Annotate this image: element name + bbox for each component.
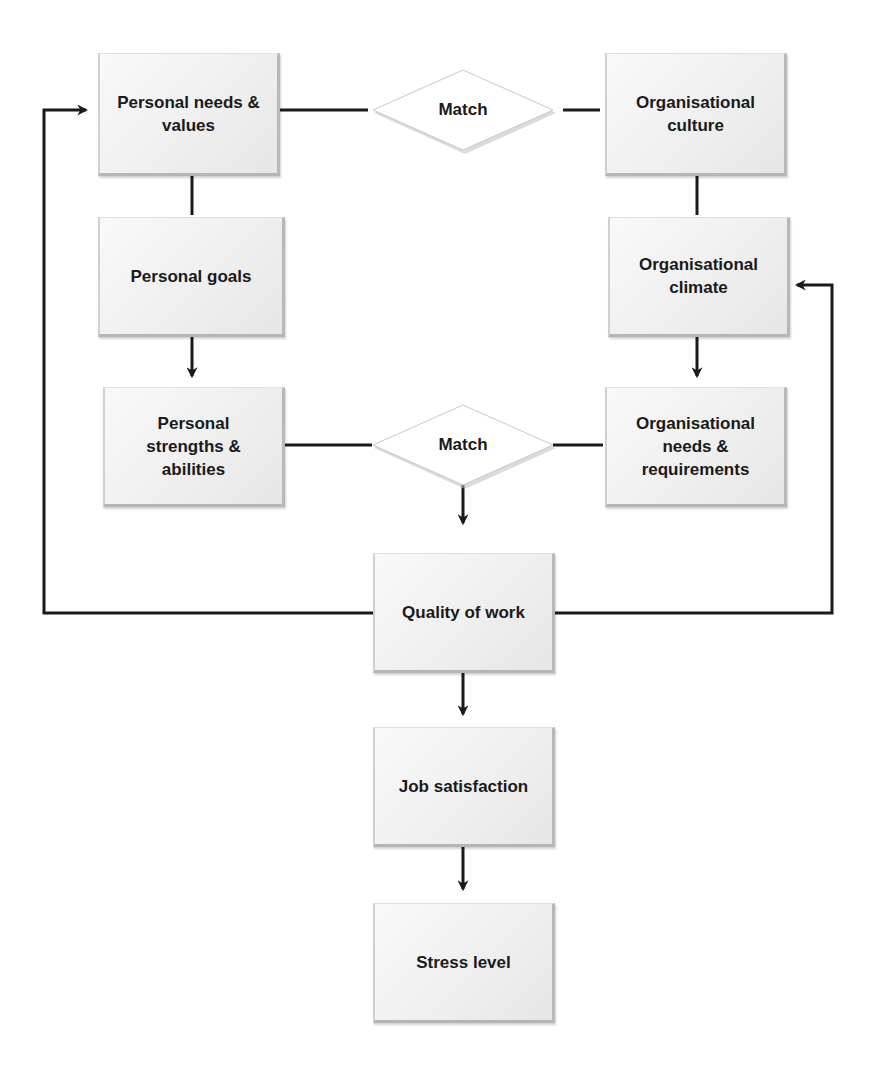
arrow-feedback-to-personal-needs: [44, 110, 373, 613]
match-top-label: Match: [373, 90, 553, 130]
node-personal-strengths-abilities: Personal strengths & abilities: [103, 387, 285, 507]
node-label: Organisational climate: [624, 253, 774, 299]
node-label: Personal needs & values: [114, 91, 264, 137]
node-label: Quality of work: [402, 601, 525, 624]
node-job-satisfaction: Job satisfaction: [373, 727, 555, 847]
match-bottom-label: Match: [373, 425, 553, 465]
node-organisational-culture: Organisational culture: [605, 53, 787, 176]
node-organisational-climate: Organisational climate: [608, 217, 790, 337]
node-label: Stress level: [416, 951, 511, 974]
node-quality-of-work: Quality of work: [373, 553, 555, 673]
node-label: Job satisfaction: [399, 775, 528, 798]
node-personal-needs-values: Personal needs & values: [98, 53, 280, 176]
node-label: Organisational culture: [621, 91, 771, 137]
node-stress-level: Stress level: [373, 903, 555, 1023]
flowchart-canvas: Match Match Personal needs & values Pers…: [0, 0, 869, 1066]
node-personal-goals: Personal goals: [98, 217, 285, 337]
node-label: Organisational needs & requirements: [621, 412, 771, 481]
node-label: Personal strengths & abilities: [129, 412, 259, 481]
node-label: Personal goals: [131, 265, 252, 288]
node-organisational-needs-requirements: Organisational needs & requirements: [605, 387, 787, 507]
